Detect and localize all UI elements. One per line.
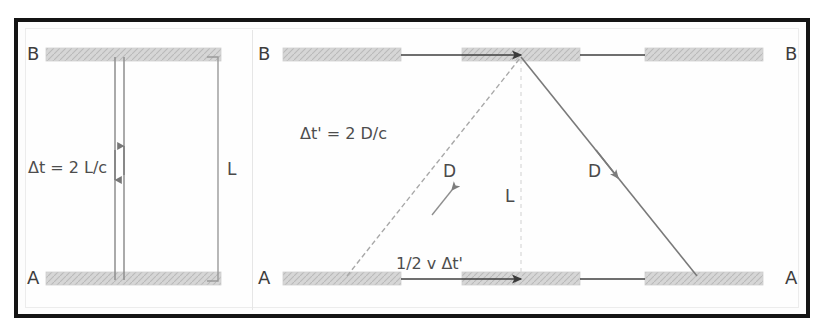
right-panel-group <box>283 48 763 285</box>
right-top-mirror-3 <box>645 48 763 61</box>
left-length-label: L <box>227 161 236 178</box>
right-top-mirror-label-right: B <box>785 45 797 63</box>
right-vertical-length-label: L <box>505 188 514 205</box>
diagram-artwork <box>0 0 836 334</box>
right-bottom-mirror-3 <box>645 272 763 285</box>
right-top-mirror-1 <box>283 48 401 61</box>
left-top-mirror-label: B <box>27 45 39 63</box>
left-bottom-mirror-label: A <box>27 269 39 287</box>
figure-root: B A Δt = 2 L/c L B B A A Δt' = 2 D/c D D… <box>0 0 836 334</box>
right-ray-descending <box>521 57 697 276</box>
left-bottom-mirror <box>46 272 221 285</box>
right-bottom-mirror-label-left: A <box>258 269 270 287</box>
right-equation-label: Δt' = 2 D/c <box>300 126 387 142</box>
right-horizontal-distance-label: 1/2 v Δt' <box>396 256 463 272</box>
right-ray-ascending <box>347 57 521 276</box>
right-descending-ray-label: D <box>588 163 601 180</box>
right-ascending-ray-label: D <box>443 163 456 180</box>
right-bottom-mirror-label-right: A <box>785 269 797 287</box>
left-top-mirror <box>46 48 221 61</box>
left-equation-label: Δt = 2 L/c <box>28 160 107 176</box>
right-bottom-mirror-1 <box>283 272 401 285</box>
right-top-mirror-label-left: B <box>258 45 270 63</box>
left-length-bracket <box>207 57 218 281</box>
